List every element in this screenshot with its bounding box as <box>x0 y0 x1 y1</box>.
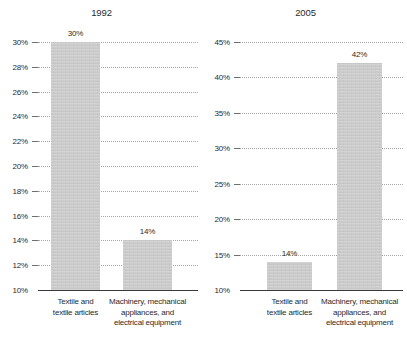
axis-tick <box>32 67 38 68</box>
axis-tick <box>234 184 240 185</box>
y-axis-tick-label: 25% <box>198 179 230 188</box>
axis-tick <box>32 240 38 241</box>
category-label-line: appliances, and <box>121 308 174 317</box>
bar-value-label: 14% <box>260 249 320 258</box>
category-label-line: textile articles <box>267 308 312 317</box>
bar-value-label: 30% <box>46 29 106 38</box>
bar <box>337 63 382 290</box>
plot-area-2005: 45%40%35%30%25%20%15%10%14%Textile andte… <box>204 0 407 348</box>
category-label-line: textile articles <box>53 308 98 317</box>
axis-tick <box>32 191 38 192</box>
plot-area-1992: 30%28%26%24%22%20%18%16%14%12%10%30%Text… <box>0 0 203 348</box>
axis-tick <box>234 219 240 220</box>
y-axis-tick-label: 26% <box>0 87 28 96</box>
y-axis-tick-label: 16% <box>0 211 28 220</box>
y-axis-tick-label: 35% <box>198 108 230 117</box>
axis-tick <box>234 42 240 43</box>
category-label-line: Textile and <box>271 297 307 306</box>
axis-tick <box>234 255 240 256</box>
axis-tick <box>32 42 38 43</box>
y-axis-tick-label: 24% <box>0 112 28 121</box>
axis-tick <box>32 265 38 266</box>
y-axis-tick-label: 10% <box>198 286 230 295</box>
y-axis-tick-label: 20% <box>0 162 28 171</box>
y-axis-tick-label: 10% <box>0 286 28 295</box>
category-label-line: Machinery, mechanical <box>321 297 398 306</box>
y-axis-tick-label: 20% <box>198 215 230 224</box>
chart-page: 1992 30%28%26%24%22%20%18%16%14%12%10%30… <box>0 0 407 348</box>
y-axis-tick-label: 45% <box>198 38 230 47</box>
axis-tick <box>32 141 38 142</box>
bar-value-label: 42% <box>330 50 390 59</box>
y-axis-tick-label: 15% <box>198 250 230 259</box>
category-label-line: electrical equipment <box>114 318 181 327</box>
axis-tick <box>32 216 38 217</box>
axis-tick <box>32 92 38 93</box>
y-axis-tick-label: 30% <box>0 38 28 47</box>
y-axis-tick-label: 22% <box>0 137 28 146</box>
y-axis-tick-label: 40% <box>198 73 230 82</box>
category-label-line: Textile and <box>57 297 93 306</box>
y-axis-tick-label: 28% <box>0 62 28 71</box>
y-axis-tick-label: 18% <box>0 186 28 195</box>
axis-tick <box>32 166 38 167</box>
axis-tick <box>234 148 240 149</box>
bar <box>267 262 312 290</box>
bar <box>51 42 100 290</box>
x-axis-category-label: Machinery, mechanicalappliances, andelec… <box>96 297 200 329</box>
axis-baseline <box>240 290 403 291</box>
chart-panel-2005: 2005 45%40%35%30%25%20%15%10%14%Textile … <box>204 0 407 348</box>
bar-value-label: 14% <box>118 227 178 236</box>
y-axis-tick-label: 12% <box>0 261 28 270</box>
x-axis-category-label: Machinery, mechanicalappliances, andelec… <box>308 297 407 329</box>
bar <box>123 240 172 290</box>
category-label-line: appliances, and <box>333 308 386 317</box>
axis-tick <box>234 77 240 78</box>
y-axis-tick-label: 30% <box>198 144 230 153</box>
gridline <box>240 42 403 43</box>
axis-tick <box>32 116 38 117</box>
axis-tick <box>234 113 240 114</box>
chart-panel-1992: 1992 30%28%26%24%22%20%18%16%14%12%10%30… <box>0 0 203 348</box>
category-label-line: electrical equipment <box>326 318 393 327</box>
category-label-line: Machinery, mechanical <box>109 297 186 306</box>
axis-baseline <box>38 290 198 291</box>
y-axis-tick-label: 14% <box>0 236 28 245</box>
